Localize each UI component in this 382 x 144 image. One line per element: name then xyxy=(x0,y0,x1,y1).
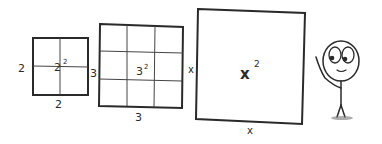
square-two-bottom-label: 2 xyxy=(55,98,62,111)
square-two-side-label: 2 xyxy=(18,62,25,75)
square-two: 2 2 2 2 xyxy=(18,38,88,111)
stick-figure xyxy=(316,41,359,120)
square-x-area-base: x xyxy=(240,65,250,83)
square-three-side-label: 3 xyxy=(90,67,97,80)
square-three: 3 3 3 2 xyxy=(90,24,183,124)
square-three-area-exponent: 2 xyxy=(144,63,148,71)
square-two-area-base: 2 xyxy=(54,61,61,74)
squares-diagram: 2 2 2 2 3 3 3 2 x x x 2 xyxy=(0,0,382,144)
square-x-side-label: x xyxy=(188,64,194,75)
figure-head-icon xyxy=(323,41,359,81)
square-x-bottom-label: x xyxy=(247,125,253,136)
square-two-area-exponent: 2 xyxy=(63,58,67,66)
square-three-area-base: 3 xyxy=(136,65,143,78)
square-x: x x x 2 xyxy=(188,9,305,136)
square-three-bottom-label: 3 xyxy=(135,111,142,124)
square-x-area-exponent: 2 xyxy=(254,59,260,69)
